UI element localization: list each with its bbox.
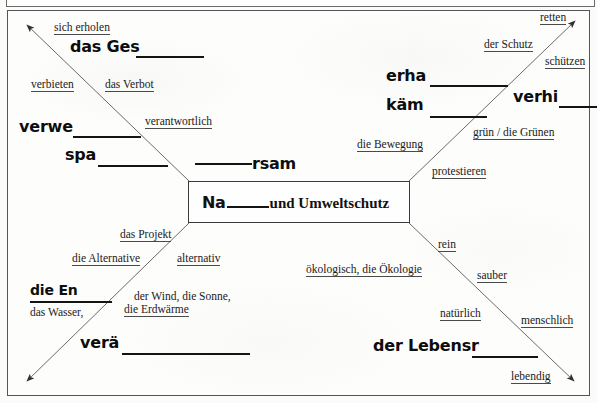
blank-der-lebensr[interactable] [472, 356, 538, 358]
blank-verhi[interactable] [559, 106, 597, 108]
blank-das-ges[interactable] [136, 56, 204, 58]
label-die-erdwaerme: die Erdwärme [124, 303, 189, 317]
label-die-alternative: die Alternative [72, 252, 140, 266]
center-topic-box: Na und Umweltschutz [188, 181, 410, 223]
center-answer-blank[interactable] [227, 195, 269, 208]
handwritten-das-ges: das Ges [70, 38, 139, 55]
blank-die-en[interactable] [30, 301, 112, 303]
blank-verwe[interactable] [73, 136, 141, 138]
label-das-wasser: das Wasser, [30, 306, 83, 318]
label-schuetzen: schützen [545, 55, 585, 69]
handwritten-veraeae: verä [80, 334, 119, 351]
label-retten: retten [540, 11, 566, 25]
label-der-schutz: der Schutz [484, 38, 533, 52]
label-lebendig: lebendig [511, 370, 551, 384]
center-suffix-printed: und Umweltschutz [270, 195, 390, 212]
label-die-bewegung: die Bewegung [357, 138, 423, 152]
label-verbieten: verbieten [31, 78, 74, 92]
blank-kaem[interactable] [430, 116, 487, 118]
label-menschlich: menschlich [521, 314, 573, 328]
center-prefix-handwritten: Na [202, 193, 226, 212]
label-das-projekt: das Projekt [120, 228, 171, 242]
label-protestieren: protestieren [432, 165, 486, 179]
blank-spa[interactable] [98, 165, 168, 167]
handwritten-erha: erha [386, 67, 426, 84]
blank-rsam[interactable] [195, 163, 252, 165]
label-das-verbot: das Verbot [105, 78, 154, 92]
handwritten-kaem: käm [386, 96, 424, 113]
label-natuerlich: natürlich [440, 307, 481, 321]
handwritten-rsam: rsam [252, 155, 296, 172]
handwritten-verwe: verwe [19, 118, 73, 135]
label-oekologisch-die-oekologie: ökologisch, die Ökologie [306, 263, 422, 277]
label-rein: rein [438, 238, 456, 252]
label-alternativ: alternativ [177, 252, 220, 266]
label-gruen-die-gruenen: grün / die Grünen [473, 126, 554, 140]
handwritten-verhi: verhi [513, 88, 558, 105]
worksheet-page: Na und Umweltschutz sich erholen das Ges… [0, 0, 597, 403]
blank-veraeae[interactable] [122, 353, 250, 355]
scan-edge-strip [6, 0, 595, 7]
label-sich-erholen: sich erholen [54, 21, 110, 35]
label-verantwortlich: verantwortlich [145, 115, 212, 129]
handwritten-spa: spa [65, 146, 96, 163]
label-sauber: sauber [477, 269, 507, 283]
center-topic-text: Na und Umweltschutz [189, 193, 389, 212]
handwritten-die-en: die En [30, 282, 78, 299]
blank-erha[interactable] [430, 85, 508, 87]
handwritten-der-lebensr: der Lebensr [373, 337, 479, 354]
label-der-wind-die-sonne: der Wind, die Sonne, [134, 290, 231, 302]
